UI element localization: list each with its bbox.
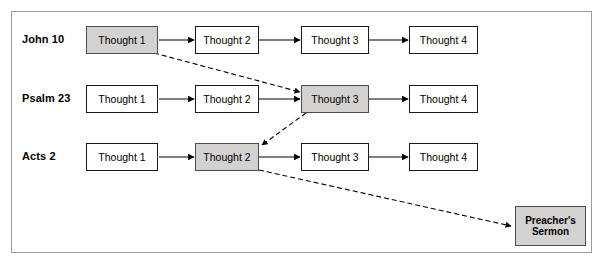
row-label-acts2: Acts 2 (22, 150, 56, 162)
cross-links-dashed (154, 53, 511, 226)
node-psalm23-thought4[interactable]: Thought 4 (409, 85, 478, 113)
node-preachers-sermon[interactable]: Preacher's Sermon (515, 206, 586, 246)
node-john10-thought4[interactable]: Thought 4 (409, 26, 478, 54)
node-psalm23-thought2[interactable]: Thought 2 (195, 85, 259, 113)
node-acts2-thought3[interactable]: Thought 3 (301, 143, 369, 171)
node-john10-thought3[interactable]: Thought 3 (301, 26, 369, 54)
arrow-acts2-t2-to-sermon (259, 170, 511, 226)
figure-canvas: John 10 Psalm 23 Acts 2 Thought 1 Though… (0, 0, 604, 264)
row-label-john10: John 10 (22, 33, 64, 45)
sermon-line-2: Sermon (532, 226, 569, 238)
node-acts2-thought4[interactable]: Thought 4 (409, 143, 478, 171)
row-label-psalm23: Psalm 23 (22, 92, 71, 104)
node-psalm23-thought3[interactable]: Thought 3 (301, 85, 369, 113)
node-john10-thought2[interactable]: Thought 2 (195, 26, 259, 54)
node-acts2-thought1[interactable]: Thought 1 (86, 143, 158, 171)
sermon-line-1: Preacher's (525, 215, 576, 227)
node-acts2-thought2[interactable]: Thought 2 (195, 143, 259, 171)
node-psalm23-thought1[interactable]: Thought 1 (86, 85, 158, 113)
node-john10-thought1[interactable]: Thought 1 (86, 26, 158, 54)
arrow-psalm23-t3-to-acts2-t2 (262, 113, 306, 145)
